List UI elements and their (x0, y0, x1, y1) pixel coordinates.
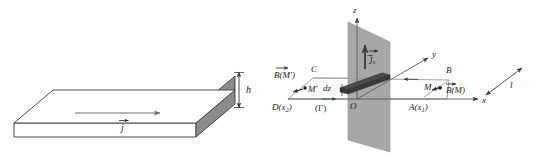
field-at-m-label: B(M) (446, 85, 465, 95)
figure-root: j h (0, 0, 536, 167)
thickness-label: h (246, 84, 251, 95)
length-dimension-arrow (486, 68, 522, 95)
slab-front-face (14, 123, 196, 137)
length-label: l (510, 80, 513, 90)
point-m-label: M (423, 82, 432, 92)
point-a-label: A(x (408, 102, 422, 112)
slab-top-face (14, 90, 235, 123)
point-a-close-paren: ) (424, 102, 428, 112)
field-at-mprime-label-group: B(M′) (274, 68, 295, 80)
point-d-close-paren: ) (288, 102, 292, 112)
slab-panel: j h (14, 72, 251, 137)
field-at-mprime-arrow (293, 89, 303, 92)
point-c-label: C (311, 64, 318, 74)
x-axis-label: x (481, 95, 486, 105)
field-at-m-label-group: B(M) (446, 84, 465, 95)
sheet-panel: x y z ⃗js dz O (271, 5, 522, 152)
point-a-label-group: A(x1) (408, 102, 428, 113)
contour-name-label: (Γ) (315, 103, 326, 113)
point-mprime-marker (303, 86, 306, 89)
field-at-mprime-label: B(M′) (274, 70, 295, 80)
point-mprime-label: M′ (307, 84, 318, 94)
point-d-label: D(x (271, 102, 286, 112)
y-axis-label: y (431, 49, 436, 59)
physics-diagram-svg: j h (0, 0, 536, 167)
strip-thickness-label: dz (323, 83, 332, 93)
z-axis-label: z (352, 5, 357, 15)
point-d-label-group: D(x2) (271, 102, 292, 113)
origin-label: O (350, 101, 357, 111)
point-b-label: B (446, 65, 452, 75)
